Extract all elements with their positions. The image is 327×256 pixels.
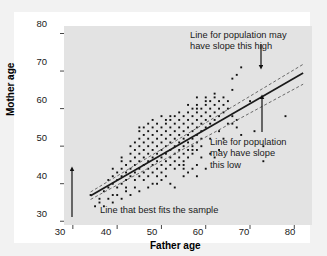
figure-card: 80 70 60 50 40 30 30 40 50 60 70 80 Fath… [14,12,310,243]
plot-canvas [14,12,310,243]
regression-line [91,73,304,196]
scatter-points [90,66,287,207]
y-axis-ticks [60,34,64,222]
x-axis-ticks [73,225,294,229]
lower-bound-line [91,84,304,199]
